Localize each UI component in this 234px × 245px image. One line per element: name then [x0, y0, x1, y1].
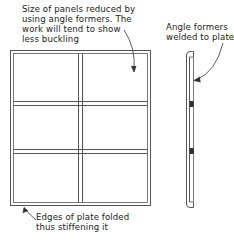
arrowhead-icon	[194, 77, 201, 82]
angle-former-upper	[190, 102, 194, 107]
angle-former-lower	[190, 149, 194, 154]
folded-bottom-edge	[187, 203, 194, 208]
front-elevation-view	[11, 51, 151, 206]
plate-drawing	[0, 0, 234, 245]
leader-lines	[23, 30, 223, 220]
plate-outer-edge	[11, 51, 151, 206]
plate-folded-edge	[14, 54, 148, 203]
former-note-leader	[196, 43, 223, 80]
side-section-view	[187, 52, 194, 208]
folded-top-edge	[187, 52, 194, 57]
arrowhead-icon	[132, 66, 137, 72]
